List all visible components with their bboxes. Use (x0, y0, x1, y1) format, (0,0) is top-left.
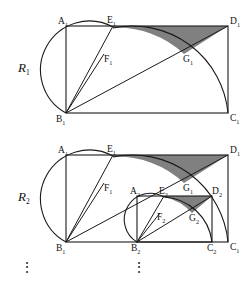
vertex-label-E1: E1 (107, 15, 116, 27)
stage2-arc-minor (40, 150, 113, 242)
stage1-ray-B1F1 (66, 54, 104, 113)
stage2-ray-B1F1 (66, 183, 104, 242)
stage2-shaded-region-outer (113, 155, 228, 183)
figure-root: R1 A1 E1 D1 F1 G1 B1 C1 (0, 0, 251, 284)
stage-2-group: R2 A1 E1 D1 F1 G1 A2 E2 (17, 144, 240, 255)
vertex-label-D2: D2 (212, 186, 222, 198)
stage2-inner-diagonal-B2D2 (137, 196, 212, 242)
vertex-label-A2: A2 (130, 186, 140, 198)
vertex-label-B2: B2 (131, 243, 140, 255)
vertex-label-D1: D1 (230, 16, 240, 28)
vertex-label-D1-stage2: D1 (230, 145, 240, 157)
ellipsis-right: ⋮ (132, 260, 146, 275)
ellipsis-left: ⋮ (20, 260, 34, 275)
vertex-label-F2: F2 (157, 212, 165, 224)
stage1-diagonal-B1D1 (66, 26, 228, 113)
vertex-label-B1-stage2: B1 (56, 243, 65, 255)
stage1-arc-minor (41, 21, 113, 113)
vertex-label-A1-stage2: A1 (58, 145, 68, 157)
vertex-label-C2: C2 (207, 243, 216, 255)
vertex-label-A1: A1 (58, 16, 68, 28)
stage-label-R1: R1 (17, 60, 30, 77)
stage-1-group: R1 A1 E1 D1 F1 G1 B1 C1 (17, 15, 240, 126)
vertex-label-B1: B1 (56, 114, 65, 126)
vertex-label-F1-stage2: F1 (104, 183, 112, 195)
vertex-label-G1-stage2: G1 (183, 183, 193, 195)
vertex-label-F1: F1 (104, 54, 112, 66)
vertex-label-C1-stage2: C1 (230, 242, 239, 254)
vertex-label-C1: C1 (230, 113, 239, 125)
vertex-label-G1: G1 (183, 54, 193, 66)
vertex-label-E1-stage2: E1 (107, 144, 116, 156)
geometry-diagram: R1 A1 E1 D1 F1 G1 B1 C1 (0, 0, 251, 284)
vertex-label-G2: G2 (189, 213, 199, 225)
stage-label-R2: R2 (17, 189, 30, 206)
stage1-shaded-region (113, 26, 228, 54)
stage2-inner-arc-major (164, 197, 212, 242)
